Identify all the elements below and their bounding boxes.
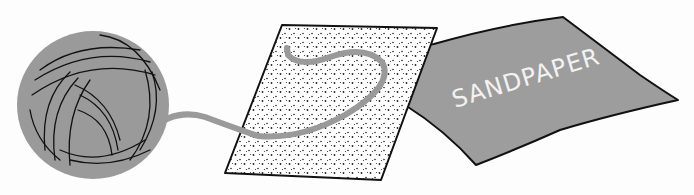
sandpaper-sheet: SANDPAPER <box>405 17 678 165</box>
dotted-sheet <box>225 25 437 180</box>
yarn-ball <box>17 31 169 179</box>
illustration: SANDPAPER <box>0 0 694 195</box>
